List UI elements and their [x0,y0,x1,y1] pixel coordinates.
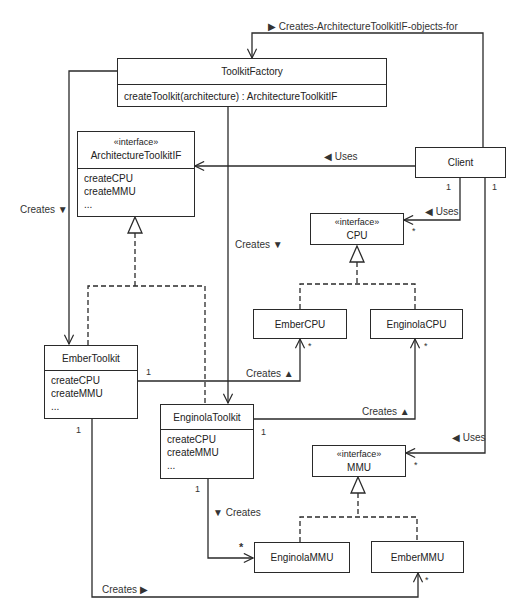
class-name: CPU [346,229,367,242]
class-enginola-cpu[interactable]: EnginolaCPU [370,309,463,339]
label-creates-objects-for: ▶ Creates-ArchitectureToolkitIF-objects-… [268,21,458,32]
generalization-triangle-toolkitif [128,217,142,233]
operation: createMMU [51,387,131,400]
mult-ember-cpu: * [308,341,312,351]
operation: createToolkit(architecture) : Architectu… [124,90,380,103]
class-name: EnginolaMMU [271,552,334,563]
label-creates-ember-toolkit: Creates ▼ [20,204,68,215]
class-name: EnginolaCPU [386,319,446,330]
operation: createCPU [51,374,131,387]
operation: createMMU [167,446,247,459]
mult-ember-mmu: * [425,575,429,585]
operation: ... [51,400,131,413]
interface-cpu[interactable]: «interface» CPU [310,213,404,245]
class-name: Client [448,157,474,168]
class-ember-toolkit[interactable]: EmberToolkit createCPU createMMU ... [44,345,138,419]
class-name: ToolkitFactory [118,59,386,84]
class-name: EmberCPU [275,319,326,330]
mult-client-mmu: 1 [492,182,497,192]
class-operations: createToolkit(architecture) : Architectu… [118,84,386,106]
mult-mmu-many: * [414,460,418,470]
label-creates-enginola-mmu: ▼ Creates [213,507,261,518]
class-name: MMU [347,461,371,474]
mult-enginola-toolkit-cpu: 1 [261,427,266,437]
mult-cpu-many: * [412,226,416,236]
class-enginola-mmu[interactable]: EnginolaMMU [254,542,350,573]
interface-mmu[interactable]: «interface» MMU [312,445,406,477]
mult-ember-toolkit-mmu: 1 [76,425,81,435]
label-uses-cpu: ◀ Uses [425,206,459,217]
class-ember-cpu[interactable]: EmberCPU [253,309,347,339]
mult-client-cpu: 1 [446,182,451,192]
label-creates-enginola-toolkit: Creates ▼ [235,239,283,250]
operation: createCPU [84,172,188,185]
class-client[interactable]: Client [415,147,506,178]
class-operations: createCPU createMMU ... [78,168,194,214]
class-operations: createCPU createMMU ... [45,370,137,416]
label-uses-mmu: ◀ Uses [452,432,486,443]
mult-enginola-cpu: * [424,341,428,351]
class-ember-mmu[interactable]: EmberMMU [371,541,464,573]
generalization-triangle-cpu [350,246,364,262]
class-enginola-toolkit[interactable]: EnginolaToolkit createCPU createMMU ... [160,404,254,479]
class-toolkit-factory[interactable]: ToolkitFactory createToolkit(architectur… [117,58,387,107]
label-uses-toolkit: ◀ Uses [324,151,358,162]
stereotype: «interface» [335,216,380,229]
operation: ... [84,198,188,211]
operation: ... [167,459,247,472]
mult-ember-toolkit-cpu: 1 [146,367,151,377]
class-name: EnginolaToolkit [161,405,253,429]
label-creates-ember-cpu: Creates ▲ [246,368,294,379]
operation: createCPU [167,433,247,446]
stereotype: «interface» [337,448,382,461]
class-name: ArchitectureToolkitIF [91,150,182,161]
label-creates-ember-mmu: Creates ▶ [102,584,148,595]
association-enginola-toolkit-mmu [208,478,253,558]
mult-enginola-toolkit-mmu: 1 [195,484,200,494]
interface-architecture-toolkit-if[interactable]: «interface» ArchitectureToolkitIF create… [77,131,195,217]
class-name: EmberToolkit [45,346,137,370]
stereotype: «interface» [78,136,194,149]
label-creates-enginola-cpu: Creates ▲ [362,406,410,417]
generalization-triangle-mmu [351,477,365,493]
mult-enginola-mmu: * [239,541,243,553]
class-name: EmberMMU [391,552,444,563]
class-operations: createCPU createMMU ... [161,429,253,475]
operation: createMMU [84,185,188,198]
